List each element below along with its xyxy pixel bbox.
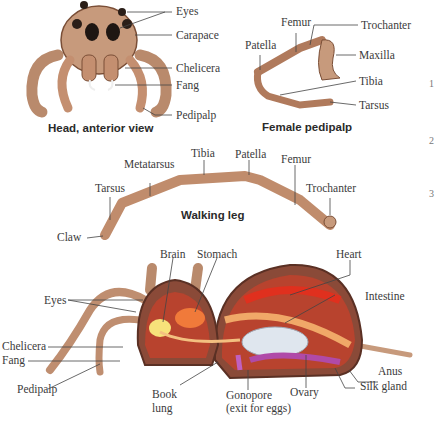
label-head-carapace: Carapace: [176, 29, 219, 42]
label-pedipalp-femur: Femur: [281, 16, 311, 29]
label-pedipalp-trochanter: Trochanter: [361, 19, 411, 32]
caption-head-anterior-view: Head, anterior view: [48, 122, 153, 134]
label-pedipalp-patella: Patella: [245, 39, 276, 52]
female-pedipalp-illustration: [257, 25, 358, 105]
label-internal-silk-gland: Silk gland: [360, 380, 407, 393]
label-leg-patella: Patella: [235, 148, 266, 161]
label-internal-ovary: Ovary: [290, 386, 319, 399]
label-head-pedipalp: Pedipalp: [176, 109, 216, 122]
label-internal-stomach: Stomach: [197, 248, 237, 261]
label-internal-heart: Heart: [336, 248, 362, 261]
label-pedipalp-tarsus: Tarsus: [359, 99, 389, 112]
label-internal-intestine: Intestine: [365, 290, 405, 303]
label-leg-claw: Claw: [57, 231, 81, 244]
label-leg-femur: Femur: [281, 153, 311, 166]
margin-mark-2: 2: [429, 135, 434, 146]
label-head-chelicera: Chelicera: [176, 62, 220, 75]
label-leg-tibia: Tibia: [191, 147, 215, 160]
label-leg-metatarsus: Metatarsus: [124, 158, 174, 171]
label-internal-anus: Anus: [378, 365, 402, 378]
caption-walking-leg: Walking leg: [181, 209, 244, 221]
label-internal-book-lung-line2: lung: [152, 402, 172, 415]
label-pedipalp-tibia: Tibia: [359, 75, 383, 88]
label-internal-chelicera: Chelicera: [2, 340, 46, 353]
label-head-fang: Fang: [176, 79, 199, 92]
label-internal-gonopore-line2: (exit for eggs): [226, 402, 291, 415]
label-pedipalp-maxilla: Maxilla: [359, 49, 395, 62]
label-internal-gonopore-line1: Gonopore: [226, 389, 272, 402]
margin-mark-3: 3: [429, 188, 434, 199]
label-internal-eyes: Eyes: [44, 294, 66, 307]
head-anterior-illustration: [32, 1, 172, 115]
walking-leg-illustration: [87, 160, 336, 238]
label-leg-tarsus: Tarsus: [95, 182, 125, 195]
label-internal-fang: Fang: [2, 354, 25, 367]
caption-female-pedipalp: Female pedipalp: [262, 121, 352, 133]
internal-anatomy-illustration: [28, 258, 410, 390]
label-internal-pedipalp: Pedipalp: [17, 383, 57, 396]
label-internal-book-lung-line1: Book: [152, 388, 177, 401]
label-internal-brain: Brain: [160, 248, 186, 261]
label-head-eyes: Eyes: [176, 5, 198, 18]
label-leg-trochanter: Trochanter: [306, 182, 356, 195]
margin-mark-1: 1: [429, 78, 434, 89]
